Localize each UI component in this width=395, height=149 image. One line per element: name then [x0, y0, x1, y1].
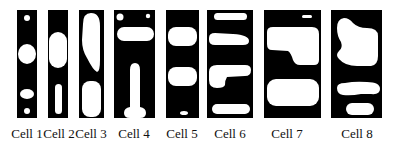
cell-1-image	[17, 10, 37, 118]
cell-6-image	[207, 10, 253, 118]
cell-7-blobs	[264, 10, 321, 118]
cell-6-blobs	[207, 10, 253, 118]
cell-4-label: Cell 4	[112, 127, 156, 141]
cell-6-label: Cell 6	[208, 127, 252, 141]
cell-7-label: Cell 7	[265, 127, 309, 141]
cell-5-image	[166, 10, 199, 118]
cell-8-label: Cell 8	[335, 127, 379, 141]
cell-4-image	[114, 10, 155, 118]
cell-4-blobs	[114, 10, 155, 118]
cell-2-blobs	[48, 10, 68, 118]
cell-2-image	[48, 10, 68, 118]
cell-3-blobs	[79, 10, 104, 118]
cell-8-blobs	[331, 10, 382, 118]
cell-3-image	[79, 10, 104, 118]
cell-8-image	[331, 10, 382, 118]
cell-7-image	[264, 10, 321, 118]
cell-5-blobs	[166, 10, 199, 118]
cell-5-label: Cell 5	[160, 127, 204, 141]
cell-1-blobs	[17, 10, 37, 118]
cell-3-label: Cell 3	[69, 127, 113, 141]
